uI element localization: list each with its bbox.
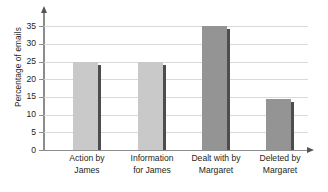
- bar-shadow: [227, 29, 230, 150]
- y-tick-label: 25: [0, 57, 36, 66]
- bar-fill: [73, 62, 98, 151]
- y-tick-mark: [39, 97, 44, 98]
- bar: [266, 99, 294, 150]
- x-axis-category-label: Action byJames: [50, 153, 124, 176]
- bar-fill: [266, 99, 291, 150]
- x-axis-category-line: Action by: [50, 153, 124, 165]
- y-tick-label: 5: [0, 128, 36, 137]
- bar-fill: [202, 26, 227, 150]
- bar-shadow: [291, 102, 294, 150]
- y-tick-label: 10: [0, 110, 36, 119]
- bar-fill: [138, 62, 163, 151]
- x-axis-category-line: Margaret: [179, 165, 253, 177]
- y-tick-label: 20: [0, 75, 36, 84]
- x-axis-category-line: Information: [115, 153, 189, 165]
- y-tick-mark: [39, 44, 44, 45]
- y-axis-arrow-icon: [41, 6, 47, 13]
- gridline: [44, 44, 308, 45]
- x-axis-category-line: for James: [115, 165, 189, 177]
- x-axis-category-line: Margaret: [243, 165, 317, 177]
- x-axis-category-label: Informationfor James: [115, 153, 189, 176]
- y-tick-label: 30: [0, 39, 36, 48]
- y-tick-mark: [39, 79, 44, 80]
- y-tick-mark: [39, 26, 44, 27]
- y-tick-mark: [39, 115, 44, 116]
- bar-shadow: [163, 65, 166, 151]
- x-axis-category-label: Dealt with byMargaret: [179, 153, 253, 176]
- y-tick-mark: [39, 132, 44, 133]
- y-tick-label: 0: [0, 146, 36, 155]
- y-tick-mark: [39, 62, 44, 63]
- y-tick-label: 15: [0, 92, 36, 101]
- bar: [73, 62, 101, 151]
- x-axis-category-line: Dealt with by: [179, 153, 253, 165]
- y-tick-label: 35: [0, 22, 36, 31]
- gridline: [44, 26, 308, 27]
- bar: [202, 26, 230, 150]
- x-axis-category-line: Deleted by: [243, 153, 317, 165]
- y-tick-mark: [39, 150, 44, 151]
- bar-shadow: [98, 65, 101, 151]
- bar: [138, 62, 166, 151]
- x-axis-category-label: Deleted byMargaret: [243, 153, 317, 176]
- bar-chart: Percentage of emails 05101520253035 Acti…: [0, 0, 328, 192]
- x-axis-category-line: James: [50, 165, 124, 177]
